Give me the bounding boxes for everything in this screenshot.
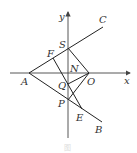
ray-AC xyxy=(29,27,103,73)
label-S: S xyxy=(59,39,66,50)
label-x: x xyxy=(124,75,130,86)
segment-PO xyxy=(68,73,89,100)
label-B: B xyxy=(94,124,102,135)
label-N: N xyxy=(69,63,80,74)
label-E: E xyxy=(75,112,84,123)
label-O: O xyxy=(87,76,95,87)
figure-caption: 图 xyxy=(64,144,71,152)
label-P: P xyxy=(57,98,65,109)
segment-QO xyxy=(68,73,89,84)
label-C: C xyxy=(99,14,107,25)
label-Q: Q xyxy=(58,80,66,91)
label-y: y xyxy=(58,11,65,22)
label-A: A xyxy=(20,76,28,87)
geometry-diagram: y x C S F N A O Q P E B 图 xyxy=(0,0,137,153)
label-F: F xyxy=(46,48,55,59)
